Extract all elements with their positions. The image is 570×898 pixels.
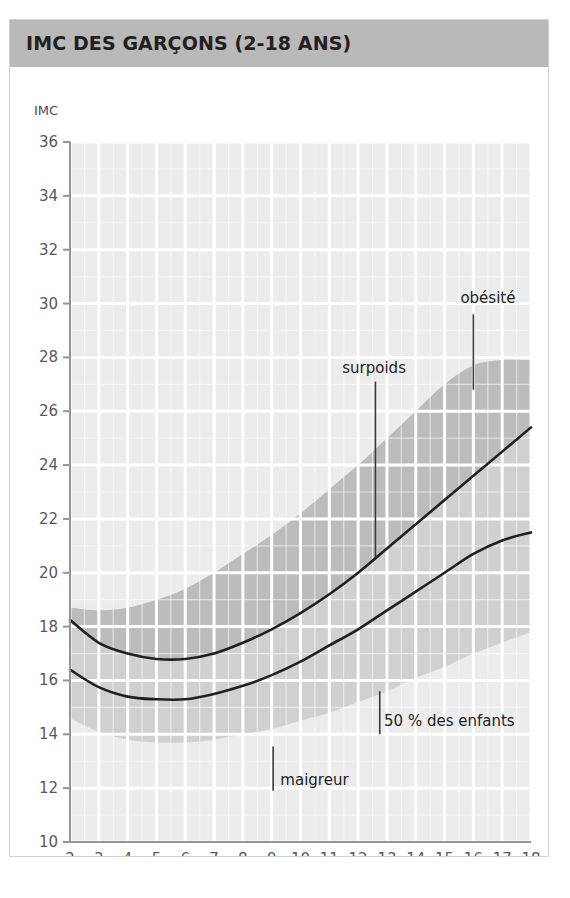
x-tick-label: 5 [152, 850, 162, 856]
y-tick-label: 16 [39, 671, 58, 689]
x-tick-label: 12 [349, 850, 368, 856]
y-tick-label: 22 [39, 510, 58, 528]
y-tick-label: 28 [39, 348, 58, 366]
bmi-growth-chart: 1012141618202224262830323436 23456789101… [10, 67, 548, 856]
y-tick-label: 24 [39, 456, 58, 474]
x-tick-label: 18 [521, 850, 540, 856]
x-tick-label: 7 [209, 850, 219, 856]
y-tick-label: 20 [39, 564, 58, 582]
page-title: IMC DES GARÇONS (2-18 ANS) [26, 32, 351, 54]
y-tick-label: 26 [39, 402, 58, 420]
x-tick-label: 10 [291, 850, 310, 856]
x-tick-label: 6 [180, 850, 190, 856]
chart-plot-area: 1012141618202224262830323436 23456789101… [10, 67, 548, 856]
x-tick-label: 8 [238, 850, 248, 856]
x-tick-label: 13 [377, 850, 396, 856]
x-tick-label: 9 [267, 850, 277, 856]
annotation-label-maigreur: maigreur [280, 771, 349, 789]
figure-card: IMC DES GARÇONS (2-18 ANS) 1012141618202… [9, 19, 549, 857]
y-tick-label: 34 [39, 187, 58, 205]
x-tick-label: 3 [94, 850, 104, 856]
y-tick-label: 18 [39, 618, 58, 636]
x-tick-label: 15 [435, 850, 454, 856]
y-tick-label: 10 [39, 833, 58, 851]
x-tick-label: 17 [493, 850, 512, 856]
y-tick-label: 32 [39, 241, 58, 259]
x-tick-label: 14 [406, 850, 425, 856]
y-tick-label: 30 [39, 295, 58, 313]
y-tick-label: 36 [39, 133, 58, 151]
annotation-label-cinquante-pourcent-des-enfants: 50 % des enfants [384, 712, 515, 730]
annotation-label-obesite: obésité [460, 289, 515, 307]
y-tick-label: 12 [39, 779, 58, 797]
y-tick-labels-group: 1012141618202224262830323436 [39, 133, 58, 851]
y-tick-label: 14 [39, 725, 58, 743]
x-tick-label: 11 [320, 850, 339, 856]
x-tick-label: 2 [65, 850, 75, 856]
y-axis-title: IMC [34, 103, 58, 118]
x-tick-labels-group: 23456789101112131415161718 [65, 850, 540, 856]
x-tick-label: 4 [123, 850, 133, 856]
figure-title-bar: IMC DES GARÇONS (2-18 ANS) [10, 20, 548, 67]
annotation-label-surpoids: surpoids [342, 359, 406, 377]
x-tick-label: 16 [464, 850, 483, 856]
